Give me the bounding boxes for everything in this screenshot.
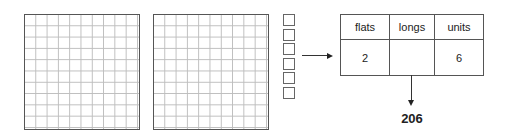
header-longs: longs	[390, 15, 435, 40]
value-flats: 2	[341, 40, 390, 76]
unit-block-1	[283, 14, 295, 26]
unit-block-5	[283, 72, 295, 84]
right-arrowhead-icon	[327, 53, 333, 59]
unit-block-4	[283, 58, 295, 70]
unit-block-3	[283, 43, 295, 55]
down-arrowhead-icon	[408, 100, 414, 106]
unit-block-2	[283, 29, 295, 41]
place-value-table: flats longs units 2 6	[340, 14, 484, 76]
value-longs	[390, 40, 435, 76]
result-number: 206	[391, 111, 433, 126]
flat-block-1	[24, 14, 140, 130]
down-arrow-icon	[411, 75, 412, 101]
unit-block-6	[283, 87, 295, 99]
flat-block-2	[153, 14, 269, 130]
header-units: units	[435, 15, 484, 40]
header-flats: flats	[341, 15, 390, 40]
value-units: 6	[435, 40, 484, 76]
right-arrow-icon	[302, 55, 328, 56]
